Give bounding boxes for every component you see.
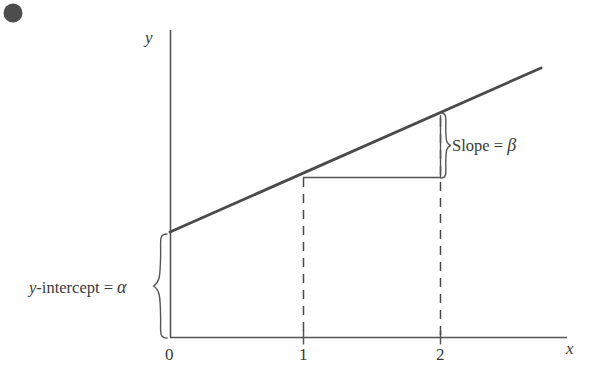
slope-symbol: β xyxy=(507,135,516,155)
intercept-annotation-text: -intercept = xyxy=(36,278,117,297)
intercept-annotation: y-intercept = α xyxy=(29,278,127,297)
x-tick-label-0: 0 xyxy=(165,346,174,363)
intercept-symbol: α xyxy=(117,277,126,297)
slope-annotation-text: Slope = xyxy=(452,136,507,155)
regression-line-diagram: y x 0 1 2 Slope = β y-intercept = α xyxy=(0,0,611,381)
x-tick-label-1: 1 xyxy=(299,346,308,363)
x-axis-label: x xyxy=(566,340,574,357)
diagram-canvas xyxy=(0,0,611,381)
x-tick-label-2: 2 xyxy=(436,346,445,363)
y-axis-label: y xyxy=(145,29,153,46)
slope-annotation: Slope = β xyxy=(452,136,516,155)
filled-circle-bullet-icon xyxy=(4,4,23,23)
intercept-brace-icon xyxy=(154,234,168,338)
slope-brace-icon xyxy=(441,113,451,178)
